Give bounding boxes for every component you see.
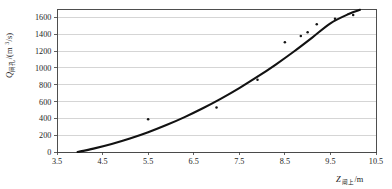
x-axis-tick-labels: 3.54.55.56.57.58.59.510.5 — [52, 157, 383, 166]
x-tick-label-9.5: 9.5 — [325, 157, 335, 166]
y-tick-label-200: 200 — [39, 131, 51, 140]
chart-container: 3.54.55.56.57.58.59.510.5 02004006008001… — [0, 0, 392, 189]
data-point-4 — [300, 35, 303, 38]
x-tick-label-10.5: 10.5 — [369, 157, 383, 166]
data-point-2 — [256, 78, 259, 81]
x-axis-subscript: 闸上 — [342, 178, 354, 186]
x-axis-unit: /m — [354, 175, 363, 184]
x-tick-label-4.5: 4.5 — [97, 157, 107, 166]
x-axis-tickmarks — [57, 152, 376, 155]
data-point-7 — [334, 17, 337, 20]
x-axis-title: Z 闸上 /m — [336, 175, 364, 186]
y-tick-label-1200: 1200 — [35, 47, 51, 56]
y-tick-label-1000: 1000 — [35, 64, 51, 73]
x-tick-label-6.5: 6.5 — [189, 157, 199, 166]
x-tick-label-5.5: 5.5 — [143, 157, 153, 166]
plot-frame — [57, 9, 376, 152]
x-tick-label-3.5: 3.5 — [52, 157, 62, 166]
data-point-3 — [284, 41, 287, 44]
y-tick-label-0: 0 — [47, 148, 51, 157]
y-axis-symbol: Q — [5, 72, 14, 78]
y-axis-unit-tail: /s) — [5, 33, 14, 42]
y-axis-tick-labels: 02004006008001000120014001600 — [35, 13, 51, 157]
y-tick-label-400: 400 — [39, 114, 51, 123]
y-axis-tickmarks — [54, 17, 57, 152]
gridlines-group — [57, 17, 376, 152]
data-point-5 — [306, 31, 309, 34]
y-tick-label-1400: 1400 — [35, 30, 51, 39]
fitted-curve — [78, 10, 361, 152]
x-tick-label-8.5: 8.5 — [280, 157, 290, 166]
y-axis-title: Q 闸孔 /(m 3 /s) — [4, 33, 16, 78]
discharge-vs-level-scatter-chart: 3.54.55.56.57.58.59.510.5 02004006008001… — [0, 0, 392, 189]
y-tick-label-600: 600 — [39, 98, 51, 107]
x-tick-label-7.5: 7.5 — [234, 157, 244, 166]
y-tick-label-800: 800 — [39, 81, 51, 90]
data-point-1 — [215, 106, 218, 109]
data-point-8 — [352, 14, 355, 16]
data-point-0 — [147, 118, 150, 121]
y-axis-subscript: 闸孔 — [8, 60, 16, 72]
data-point-6 — [316, 23, 319, 26]
x-axis-symbol: Z — [336, 175, 341, 184]
y-tick-label-1600: 1600 — [35, 13, 51, 22]
y-axis-unit-base: /(m — [5, 47, 14, 59]
